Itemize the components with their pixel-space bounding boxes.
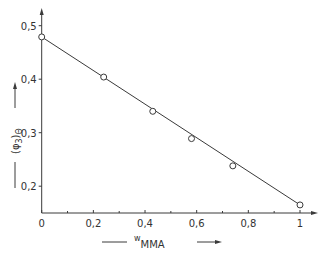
y-ticks: 0,20,30,40,5 — [21, 21, 42, 193]
y-axis-arrow-icon — [40, 8, 44, 15]
y-label-text: (φ3)Θ — [10, 128, 24, 154]
data-point-circle-icon — [189, 136, 195, 142]
y-label-arrow-icon — [13, 82, 17, 89]
x-tick-label: 1 — [297, 218, 303, 229]
y-axis-label: (φ3)Θ — [10, 82, 24, 188]
x-tick-label: 0,4 — [137, 218, 153, 229]
data-point-circle-icon — [297, 202, 303, 208]
data-point-circle-icon — [39, 34, 45, 40]
x-tick-label: 0 — [39, 218, 45, 229]
y-tick-label: 0,5 — [21, 21, 37, 32]
regression-line — [42, 37, 300, 205]
data-point-circle-icon — [230, 163, 236, 169]
x-tick-label: 0,8 — [240, 218, 256, 229]
axes — [40, 8, 318, 215]
chart: 00,20,40,60,81 0,20,30,40,5 (φ3)Θ wMMA — [0, 0, 322, 257]
x-axis-label: wMMA — [102, 234, 222, 250]
fit-line — [42, 37, 300, 205]
data-point-circle-icon — [150, 108, 156, 114]
y-tick-label: 0,2 — [21, 181, 37, 192]
x-tick-label: 0,2 — [85, 218, 101, 229]
data-point-circle-icon — [101, 74, 107, 80]
x-label-text: wMMA — [134, 234, 165, 250]
y-tick-label: 0,4 — [21, 74, 37, 85]
x-label-arrow-icon — [215, 240, 222, 244]
x-axis-arrow-icon — [311, 211, 318, 215]
x-tick-label: 0,6 — [189, 218, 205, 229]
